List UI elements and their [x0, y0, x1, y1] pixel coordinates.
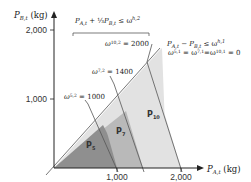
feasible-region-diagram: 2,000 1,000 1,000 2,000 PB,t (kg) PA,t (… — [0, 0, 251, 182]
omega-1400-label: ω7,2 = 1400 — [92, 68, 133, 77]
omega-1400-leader — [110, 76, 114, 84]
ytick-2000-label: 2,000 — [26, 25, 48, 35]
y-axis-label: PB,t (kg) — [13, 10, 48, 21]
diagonal-constraint-label: PA,t − PB,t ≤ ωh,1 — [166, 38, 225, 49]
xtick-1000-label: 1,000 — [106, 172, 128, 182]
xtick-2000-label: 2,000 — [170, 172, 192, 182]
top-constraint-label: PA,t + ⅓PB,t ≤ ωh,2 — [74, 15, 140, 26]
top-constraint-bracket — [73, 33, 149, 36]
ytick-1000-label: 1,000 — [26, 94, 48, 104]
diagonal-constraint-values: ω5,1 = ω7,1=ω10,1 = 0 — [168, 49, 240, 58]
x-axis-label: PA,t (kg) — [206, 164, 241, 175]
omega-2000-label: ω10,2 = 2000 — [105, 40, 149, 49]
x-axis-arrow-icon — [197, 165, 204, 171]
omega-1000-label: ω5,2 = 1000 — [64, 93, 105, 102]
y-axis-arrow-icon — [51, 11, 57, 18]
